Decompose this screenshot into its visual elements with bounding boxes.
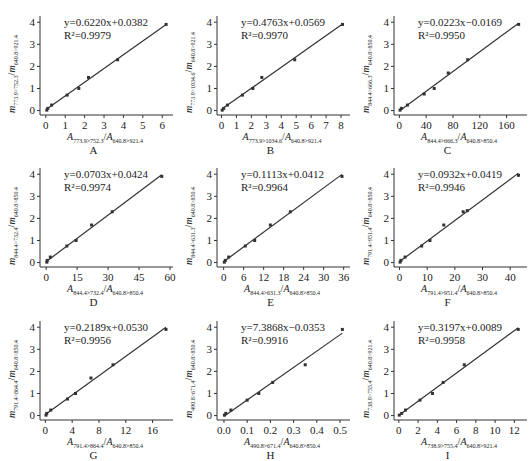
regression-equation: y=0.3197x+0.0089R²=0.9958 (418, 321, 502, 347)
y-tick-label: 0 (384, 104, 390, 116)
y-axis-label: m844.4>631.3/m640.8>850.4 (183, 187, 196, 265)
x-axis-label: A844.4>631.3/A640.8>850.4 (217, 283, 347, 296)
y-tick-label: 4 (207, 16, 213, 28)
equation-text: y=0.1113x+0.0412 (241, 168, 324, 181)
x-tick-label: 0.4 (310, 424, 324, 436)
x-tick-label: 0 (219, 119, 225, 131)
regression-equation: y=0.1113x+0.0412R²=0.9964 (241, 168, 324, 194)
x-tick-label: 80 (447, 119, 459, 131)
data-point (75, 239, 78, 242)
data-point (226, 104, 229, 107)
x-tick-label: 160 (498, 119, 515, 131)
x-tick-label: 0.3 (287, 424, 301, 436)
y-tick-label: 1 (384, 82, 390, 94)
data-point (116, 58, 119, 61)
data-point (164, 328, 167, 331)
y-tick-label: 3 (384, 343, 390, 355)
data-point (74, 392, 77, 395)
equation-text: y=0.0223x−0.0169 (418, 16, 502, 29)
y-tick-label: 0 (384, 409, 390, 421)
data-point (111, 210, 114, 213)
data-point (229, 409, 232, 412)
data-point (428, 239, 431, 242)
data-point (420, 245, 423, 248)
data-point (406, 104, 409, 107)
y-axis-label: m844.4>732.4/m640.8>850.4 (6, 187, 19, 265)
equation-text: y=0.4763x+0.0569 (241, 16, 325, 29)
data-point (442, 224, 445, 227)
y-tick-label: 4 (207, 168, 213, 180)
r-squared-text: R²=0.9974 (64, 181, 148, 194)
data-point (517, 328, 520, 331)
regression-equation: y=0.6220x+0.0382R²=0.9979 (64, 16, 148, 42)
regression-equation: y=0.0932x+0.0419R²=0.9946 (418, 168, 502, 194)
regression-equation: y=0.4763x+0.0569R²=0.9970 (241, 16, 325, 42)
y-axis-label: m791.4>951.4/m640.8>850.4 (360, 187, 373, 265)
x-tick-label: 0.0 (217, 424, 231, 436)
chart-panel-g: 012340481216y=0.2189x+0.0530R²=0.9956A79… (0, 305, 177, 457)
x-tick-label: 30 (477, 271, 489, 283)
equation-text: y=0.3197x+0.0089 (418, 321, 502, 334)
chart-panel-e: 01234061218243036y=0.1113x+0.0412R²=0.99… (177, 152, 354, 304)
x-tick-label: 30 (103, 271, 115, 283)
data-point (304, 363, 307, 366)
x-tick-label: 0 (43, 119, 49, 131)
x-tick-label: 1 (234, 119, 240, 131)
data-point (45, 412, 48, 415)
x-tick-label: 20 (449, 271, 461, 283)
x-tick-label: 5 (293, 119, 299, 131)
x-tick-label: 120 (472, 119, 489, 131)
data-point (271, 381, 274, 384)
y-tick-label: 1 (30, 234, 36, 246)
y-tick-label: 1 (384, 387, 390, 399)
data-point (341, 175, 344, 178)
y-tick-label: 4 (30, 168, 36, 180)
data-point (431, 392, 434, 395)
y-tick-label: 3 (384, 190, 390, 202)
x-tick-label: 8 (473, 424, 479, 436)
y-tick-label: 2 (207, 365, 213, 377)
data-point (400, 412, 403, 415)
y-tick-label: 4 (30, 321, 36, 333)
equation-text: y=0.6220x+0.0382 (64, 16, 148, 29)
data-point (463, 363, 466, 366)
y-tick-label: 3 (30, 190, 36, 202)
y-tick-label: 3 (207, 38, 213, 50)
y-tick-label: 2 (207, 212, 213, 224)
data-point (77, 87, 80, 90)
y-tick-label: 3 (384, 38, 390, 50)
data-point (269, 224, 272, 227)
x-tick-label: 4 (279, 119, 285, 131)
x-axis-label: A773.9>1034.6/A640.8>921.4 (217, 131, 347, 144)
data-point (423, 93, 426, 96)
regression-equation: y=7.3868x−0.0353R²=0.9916 (241, 321, 325, 347)
x-tick-label: 8 (96, 424, 102, 436)
x-tick-label: 0 (397, 119, 403, 131)
chart-panel-d: 01234015304560y=0.0703x+0.0424R²=0.9974A… (0, 152, 177, 304)
x-tick-label: 8 (338, 119, 344, 131)
x-axis-label: A791.4>951.4/A640.8>850.4 (394, 283, 524, 296)
y-tick-label: 0 (30, 104, 36, 116)
data-point (399, 259, 402, 262)
y-tick-label: 3 (30, 38, 36, 50)
x-tick-label: 6 (241, 271, 247, 283)
data-point (260, 76, 263, 79)
y-tick-label: 3 (207, 343, 213, 355)
y-axis-label: m844.4>666.3/m640.8>850.4 (360, 35, 373, 113)
y-tick-label: 3 (30, 343, 36, 355)
x-tick-label: 4 (69, 424, 75, 436)
data-point (466, 58, 469, 61)
data-point (227, 256, 230, 259)
y-tick-label: 1 (207, 387, 213, 399)
data-point (404, 409, 407, 412)
x-axis-label: A773.9>752.3/A640.8>921.4 (40, 131, 170, 144)
y-tick-label: 1 (207, 82, 213, 94)
x-tick-label: 0.5 (333, 424, 347, 436)
y-tick-label: 2 (384, 60, 390, 72)
data-point (462, 210, 465, 213)
data-point (257, 392, 260, 395)
x-tick-label: 16 (147, 424, 159, 436)
data-point (112, 363, 115, 366)
regression-equation: y=0.2189x+0.0530R²=0.9956 (64, 321, 148, 347)
x-axis-label: A738.9>755.4/A640.8>921.4 (394, 436, 524, 449)
